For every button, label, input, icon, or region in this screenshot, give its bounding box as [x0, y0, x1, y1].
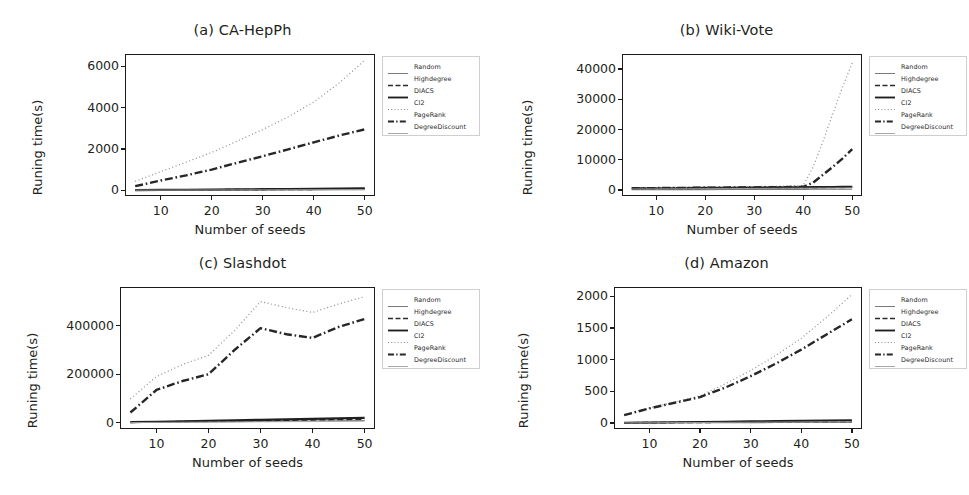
panel-d-xtick-1: 20	[680, 436, 720, 451]
panel-a-legend: RandomHighdegreeDIACSCI2PageRankDegreeDi…	[382, 56, 480, 136]
legend-item-highdegree[interactable]: Highdegree	[387, 307, 474, 319]
legend-key-diacs-icon	[874, 87, 896, 96]
panel-d-xtickmark-2	[750, 429, 751, 433]
panel-c-xtickmark-0	[156, 429, 157, 433]
legend-key-ci2-icon	[387, 99, 409, 108]
panel-d-legend: RandomHighdegreeDIACSCI2PageRankDegreeDi…	[869, 289, 967, 369]
panel-b-ytick-3: 30000	[560, 91, 616, 106]
legend-label-random: Random	[414, 63, 441, 72]
legend-label-random: Random	[414, 296, 441, 305]
panel-b-xtickmark-0	[656, 196, 657, 200]
panel-c-xtick-3: 40	[293, 436, 333, 451]
panel-c-ytickmark-1	[116, 374, 120, 375]
panel-b-ytickmark-2	[618, 129, 622, 130]
legend-item-degreediscount[interactable]: DegreeDiscount	[387, 122, 474, 134]
legend-key-highdegree-icon	[874, 75, 896, 84]
legend-item-ci2[interactable]: CI2	[874, 98, 961, 110]
legend-item-degreediscount[interactable]: DegreeDiscount	[874, 355, 961, 367]
legend-label-ci2: CI2	[901, 332, 912, 341]
panel-a-xtick-3: 40	[294, 203, 334, 218]
legend-label-degreediscount: DegreeDiscount	[901, 356, 953, 365]
legend-label-ci2: CI2	[414, 332, 425, 341]
panel-c-xtickmark-2	[260, 429, 261, 433]
legend-item-ci2[interactable]: CI2	[387, 331, 474, 343]
panel-c-xtick-2: 30	[241, 436, 281, 451]
legend-key-degreediscount-icon	[387, 123, 409, 132]
legend-label-diacs: DIACS	[901, 87, 921, 96]
legend-label-ci2: CI2	[901, 99, 912, 108]
legend-key-degreediscount-icon	[874, 123, 896, 132]
panel-d-ytickmark-2	[610, 359, 614, 360]
legend-item-ci2[interactable]: CI2	[387, 98, 474, 110]
legend-key-degreediscount-icon	[387, 356, 409, 365]
legend-item-diacs[interactable]: DIACS	[874, 86, 961, 98]
panel-b-ytick-1: 10000	[560, 152, 616, 167]
panel-b-xtickmark-1	[705, 196, 706, 200]
legend-item-random[interactable]: Random	[387, 62, 474, 74]
legend-key-diacs-icon	[387, 87, 409, 96]
panel-a-ytick-3: 6000	[63, 58, 119, 73]
panel-c-legend: RandomHighdegreeDIACSCI2PageRankDegreeDi…	[382, 289, 480, 369]
panel-d-amazon: (d) Amazon Runing time(s) Number of seed…	[484, 255, 969, 490]
panel-b-ytickmark-4	[618, 68, 622, 69]
panel-d-xtickmark-0	[649, 429, 650, 433]
legend-item-random[interactable]: Random	[874, 62, 961, 74]
legend-item-pagerank[interactable]: PageRank	[387, 343, 474, 355]
legend-item-highdegree[interactable]: Highdegree	[874, 74, 961, 86]
panel-b-xtickmark-3	[803, 196, 804, 200]
panel-c-xtick-4: 50	[345, 436, 385, 451]
legend-item-degreediscount[interactable]: DegreeDiscount	[387, 355, 474, 367]
panel-d-ytickmark-3	[610, 327, 614, 328]
panel-b-ytick-4: 40000	[560, 61, 616, 76]
panel-b-ytickmark-1	[618, 159, 622, 160]
panel-b-xtick-2: 30	[734, 203, 774, 218]
legend-key-ci2-icon	[874, 99, 896, 108]
panel-b-xtick-4: 50	[832, 203, 872, 218]
legend-key-ci2-icon	[874, 332, 896, 341]
panel-d-ytick-0: 0	[552, 415, 608, 430]
legend-label-highdegree: Highdegree	[414, 75, 452, 84]
panel-a-xtickmark-1	[211, 196, 212, 200]
legend-label-degreediscount: DegreeDiscount	[414, 123, 466, 132]
legend-item-diacs[interactable]: DIACS	[874, 319, 961, 331]
panel-c-xtickmark-1	[208, 429, 209, 433]
legend-key-diacs-icon	[874, 320, 896, 329]
panel-b-legend: RandomHighdegreeDIACSCI2PageRankDegreeDi…	[869, 56, 967, 136]
legend-key-random-icon	[874, 63, 896, 72]
legend-label-pagerank: PageRank	[901, 111, 933, 120]
panel-b-xtick-1: 20	[685, 203, 725, 218]
panel-c-slashdot: (c) Slashdot Runing time(s) Number of se…	[0, 255, 485, 490]
legend-item-pagerank[interactable]: PageRank	[874, 110, 961, 122]
legend-label-random: Random	[901, 296, 928, 305]
legend-label-pagerank: PageRank	[901, 344, 933, 353]
legend-item-highdegree[interactable]: Highdegree	[387, 74, 474, 86]
legend-label-highdegree: Highdegree	[901, 308, 939, 317]
legend-item-degreediscount[interactable]: DegreeDiscount	[874, 122, 961, 134]
legend-item-diacs[interactable]: DIACS	[387, 86, 474, 98]
panel-d-ytickmark-1	[610, 391, 614, 392]
legend-item-highdegree[interactable]: Highdegree	[874, 307, 961, 319]
legend-key-highdegree-icon	[874, 308, 896, 317]
panel-d-ytick-3: 1500	[552, 320, 608, 335]
legend-item-random[interactable]: Random	[874, 295, 961, 307]
legend-key-pagerank-icon	[387, 344, 409, 353]
panel-d-ytick-1: 500	[552, 383, 608, 398]
legend-label-random: Random	[901, 63, 928, 72]
panel-a-xtick-0: 10	[141, 203, 181, 218]
panel-c-xtick-1: 20	[188, 436, 228, 451]
legend-key-random-icon	[874, 296, 896, 305]
panel-a-ytickmark-2	[121, 107, 125, 108]
legend-key-diacs-icon	[387, 320, 409, 329]
panel-b-xtick-0: 10	[636, 203, 676, 218]
panel-d-xtick-4: 50	[832, 436, 872, 451]
panel-c-ytickmark-0	[116, 422, 120, 423]
legend-item-pagerank[interactable]: PageRank	[874, 343, 961, 355]
legend-item-diacs[interactable]: DIACS	[387, 319, 474, 331]
panel-d-xtick-2: 30	[731, 436, 771, 451]
legend-label-degreediscount: DegreeDiscount	[414, 356, 466, 365]
legend-item-pagerank[interactable]: PageRank	[387, 110, 474, 122]
legend-item-ci2[interactable]: CI2	[874, 331, 961, 343]
panel-b-ytick-0: 0	[560, 182, 616, 197]
legend-item-random[interactable]: Random	[387, 295, 474, 307]
legend-key-ci2-icon	[387, 332, 409, 341]
